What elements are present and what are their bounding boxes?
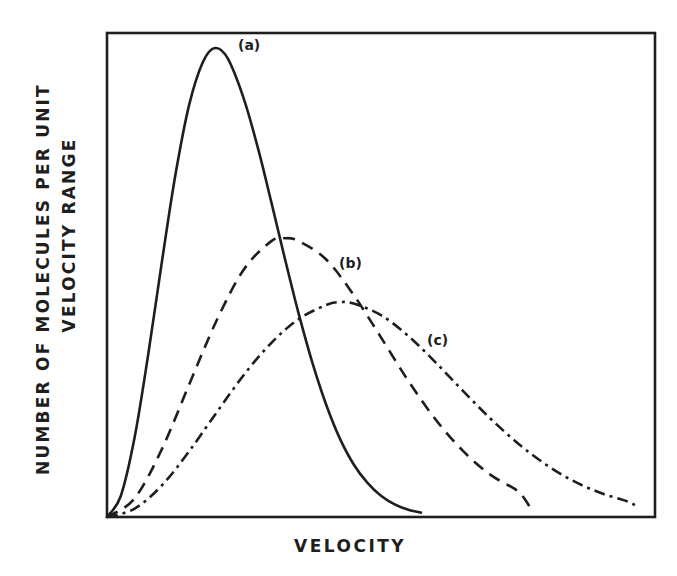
y-axis-label-line1: NUMBER OF MOLECULES PER UNIT [33,83,53,475]
curve-label-a: (a) [238,37,260,53]
curve-c-dash-dot [107,302,639,517]
chart-canvas [0,0,677,576]
curve-label-b: (b) [339,255,362,271]
curve-label-c: (c) [427,332,448,348]
y-axis-label-line2: VELOCITY RANGE [59,138,79,333]
x-axis-label: VELOCITY [294,536,406,556]
curve-a-solid [107,48,421,517]
